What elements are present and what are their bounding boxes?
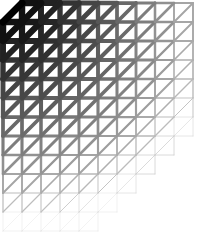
mesh-canvas — [0, 0, 203, 232]
mesh-figure — [0, 0, 203, 232]
